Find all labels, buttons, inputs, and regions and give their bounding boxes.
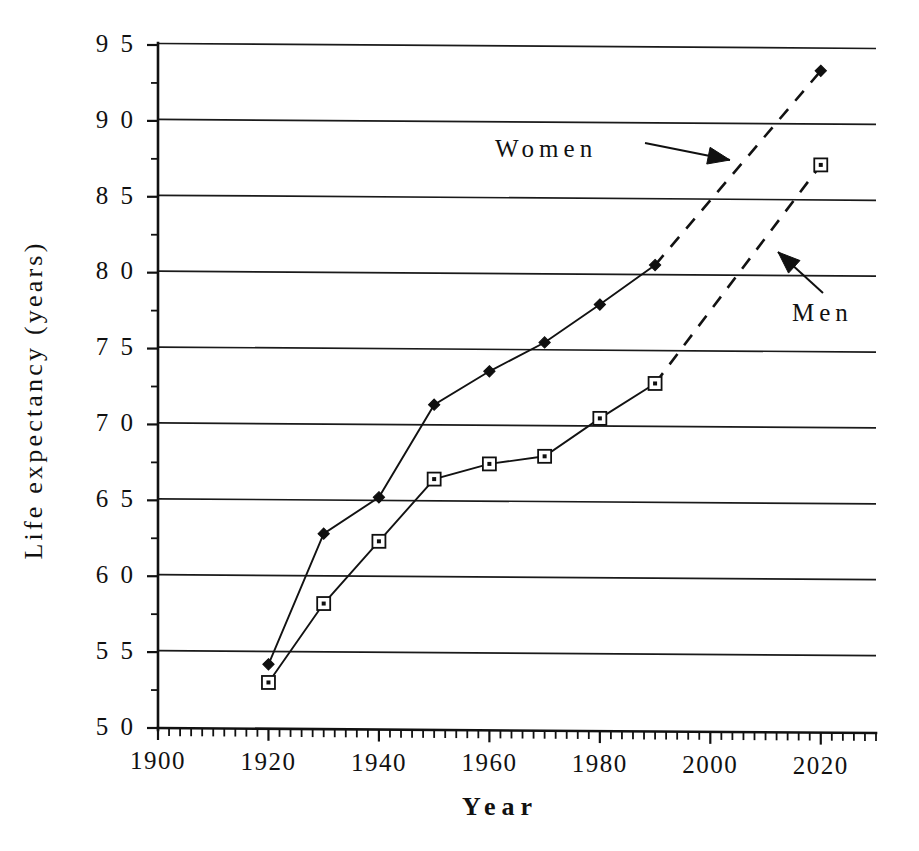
y-tick-label-95: 9 5 — [96, 30, 136, 57]
marker-women-1970 — [539, 337, 550, 348]
marker-women-1920 — [263, 659, 274, 670]
x-tick-label-1920: 1920 — [240, 748, 296, 775]
x-tick-label-1980: 1980 — [572, 750, 628, 777]
series-annotations: WomenMen — [495, 135, 853, 326]
annotation-arrowhead-women — [707, 147, 730, 164]
grid-line-75 — [158, 347, 876, 352]
x-tick-label-2000: 2000 — [682, 751, 738, 778]
grid-line-60 — [158, 575, 876, 580]
y-tick-label-80: 8 0 — [96, 257, 136, 284]
marker-men-1980-center — [598, 416, 602, 420]
marker-women-1950 — [429, 399, 440, 410]
grid-line-55 — [158, 651, 876, 656]
series-label-women: Women — [495, 135, 597, 162]
y-tick-label-70: 7 0 — [96, 409, 136, 436]
y-tick-label-50: 5 0 — [96, 713, 136, 740]
y-tick-label-90: 9 0 — [96, 106, 136, 133]
marker-men-1970-center — [543, 454, 547, 458]
marker-men-1990-center — [653, 381, 657, 385]
marker-women-1930 — [318, 528, 329, 539]
marker-men-1930-center — [322, 602, 326, 606]
series-path-women-projected — [655, 71, 821, 265]
y-tick-label-60: 6 0 — [96, 561, 136, 588]
y-tick-label-55: 5 5 — [96, 637, 136, 664]
marker-men-1950-center — [432, 477, 436, 481]
grid-line-95 — [158, 44, 876, 49]
series-label-men: Men — [792, 299, 853, 326]
life-expectancy-line-chart: 5 05 56 06 57 07 58 08 59 09 5 190019201… — [0, 0, 919, 851]
x-axis-title: Year — [462, 792, 538, 821]
grid-line-90 — [158, 119, 876, 124]
x-axis-tick-labels: 1900192019401960198020002020 — [130, 747, 849, 779]
y-axis-title: Life expectancy (years) — [19, 240, 48, 559]
marker-women-1960 — [484, 366, 495, 377]
grid-line-70 — [158, 423, 876, 428]
marker-men-1960-center — [487, 462, 491, 466]
y-axis-tick-labels: 5 05 56 06 57 07 58 08 59 09 5 — [96, 30, 136, 740]
y-axis-ticks — [147, 45, 158, 728]
x-tick-label-1900: 1900 — [130, 747, 186, 774]
y-tick-label-85: 8 5 — [96, 182, 136, 209]
chart-container: 5 05 56 06 57 07 58 08 59 09 5 190019201… — [0, 0, 919, 851]
grid-line-65 — [158, 499, 876, 504]
x-axis-line — [158, 728, 876, 733]
grid-line-80 — [158, 271, 876, 276]
y-tick-label-65: 6 5 — [96, 485, 136, 512]
x-tick-label-2020: 2020 — [793, 752, 849, 779]
y-tick-label-75: 7 5 — [96, 333, 136, 360]
grid-line-85 — [158, 195, 876, 200]
x-tick-label-1960: 1960 — [461, 749, 517, 776]
series-lines — [269, 71, 821, 683]
x-tick-label-1940: 1940 — [351, 749, 407, 776]
marker-men-1920-center — [266, 680, 270, 684]
marker-men-projected-2020-center — [819, 163, 823, 167]
marker-men-1940-center — [377, 539, 381, 543]
